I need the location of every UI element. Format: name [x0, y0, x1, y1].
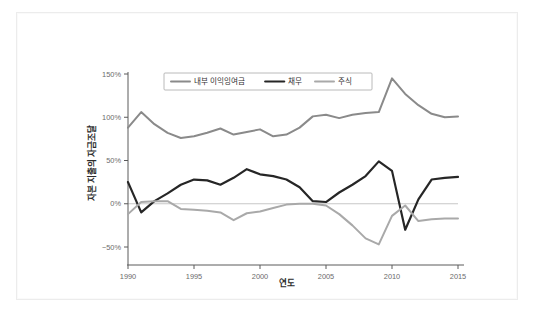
series-line-1 [128, 161, 458, 229]
legend-label-2: 주식 [338, 77, 352, 86]
legend-label-0: 내부 이익잉여금 [194, 76, 245, 86]
plot-area: −50%0%50%100%150%19901995200020052010201… [102, 70, 466, 281]
x-axis-tick-label: 1990 [120, 272, 136, 281]
y-axis-tick-label: 50% [106, 156, 121, 165]
y-axis-tick-label: 100% [102, 113, 121, 122]
page-root: −50%0%50%100%150%19901995200020052010201… [0, 0, 534, 321]
x-axis-tick-label: 2010 [384, 272, 400, 281]
y-axis-tick-label: 0% [110, 199, 121, 208]
x-axis-tick-label: 2005 [318, 272, 334, 281]
x-axis-tick-label: 2000 [252, 272, 268, 281]
x-axis-tick-label: 2015 [450, 272, 466, 281]
legend-label-1: 채무 [288, 76, 302, 86]
line-chart: −50%0%50%100%150%19901995200020052010201… [0, 0, 534, 321]
y-axis-tick-label: 150% [102, 70, 121, 79]
chart-figure: −50%0%50%100%150%19901995200020052010201… [0, 0, 534, 321]
x-axis-tick-label: 1995 [186, 272, 202, 281]
y-axis-tick-label: −50% [102, 243, 122, 252]
x-axis-title: 연도 [279, 278, 295, 288]
y-axis-title: 자본 지출의 자금조달 [86, 125, 97, 202]
